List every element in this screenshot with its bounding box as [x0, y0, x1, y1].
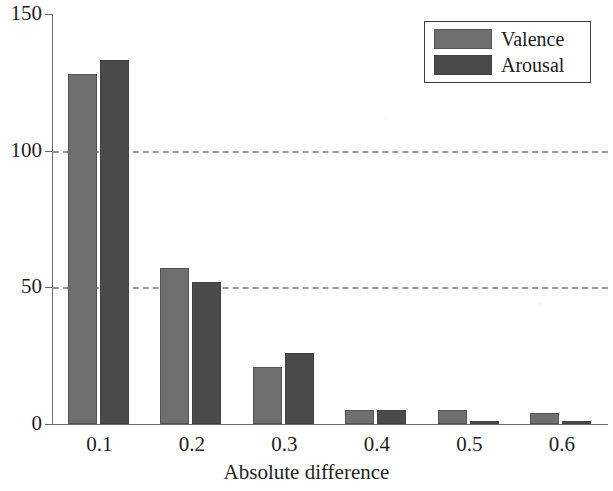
bar-valence-0.5: [438, 410, 467, 424]
bar-group-0.2: [146, 14, 239, 424]
legend: Valence Arousal: [424, 21, 591, 83]
bar-valence-0.6: [530, 413, 559, 424]
x-tick-label-0.3: 0.3: [244, 432, 324, 456]
bar-valence-0.4: [345, 410, 374, 424]
legend-item-arousal: Arousal: [434, 54, 564, 76]
bar-chart: 050100150 0.10.20.30.40.50.6 Absolute di…: [0, 0, 613, 491]
y-tick-label-50: 50: [2, 276, 42, 297]
legend-label-valence: Valence: [501, 29, 564, 49]
x-tick-label-0.4: 0.4: [337, 432, 417, 456]
legend-swatch-valence-icon: [434, 29, 492, 49]
y-tick-100: [45, 151, 53, 152]
x-axis-title: Absolute difference: [0, 460, 613, 484]
bar-valence-0.2: [160, 268, 189, 424]
y-tick-50: [45, 287, 53, 288]
bar-group-0.4: [331, 14, 424, 424]
y-tick-150: [45, 14, 53, 15]
legend-swatch-arousal-icon: [434, 55, 492, 75]
x-axis-line: [52, 424, 608, 425]
y-tick-label-150: 150: [2, 3, 42, 24]
x-tick-label-0.2: 0.2: [152, 432, 232, 456]
bar-arousal-0.2: [192, 282, 221, 424]
bar-arousal-0.5: [470, 421, 499, 424]
bar-group-0.1: [53, 14, 146, 424]
y-axis-tick-labels: 050100150: [0, 0, 42, 491]
bar-arousal-0.4: [377, 410, 406, 424]
bar-arousal-0.6: [562, 421, 591, 424]
x-tick-label-0.5: 0.5: [429, 432, 509, 456]
bar-arousal-0.1: [100, 60, 129, 424]
bar-arousal-0.3: [285, 353, 314, 424]
bar-valence-0.1: [68, 74, 97, 424]
bar-valence-0.3: [253, 367, 282, 424]
bar-group-0.3: [238, 14, 331, 424]
legend-label-arousal: Arousal: [501, 55, 564, 75]
y-tick-label-100: 100: [2, 140, 42, 161]
legend-item-valence: Valence: [434, 28, 564, 50]
y-tick-0: [45, 424, 53, 425]
y-tick-label-0: 0: [2, 413, 42, 434]
x-tick-label-0.1: 0.1: [59, 432, 139, 456]
x-tick-label-0.6: 0.6: [522, 432, 602, 456]
